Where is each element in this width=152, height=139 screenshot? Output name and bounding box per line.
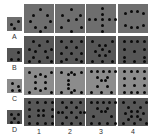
dot (123, 48, 126, 51)
dot (70, 30, 73, 33)
dot (90, 122, 93, 125)
pattern-cell-a1 (24, 4, 54, 33)
dot (123, 84, 126, 87)
dot (102, 101, 105, 104)
dot (123, 91, 126, 94)
dot (136, 70, 139, 73)
dot (13, 117, 16, 120)
dot (139, 106, 142, 109)
dot (80, 26, 83, 29)
dot (10, 58, 13, 61)
dot (70, 101, 73, 104)
dot (139, 118, 142, 121)
dot (123, 70, 126, 73)
dot (29, 20, 32, 23)
dot (108, 50, 111, 53)
pattern-cell-c1 (24, 67, 54, 95)
dot (108, 70, 111, 73)
dot (17, 51, 20, 54)
dot (133, 84, 136, 87)
col-label-2: 2 (68, 128, 72, 136)
dot (143, 91, 146, 94)
dot (80, 60, 83, 63)
dot (51, 101, 54, 104)
dot (28, 101, 31, 104)
dot (108, 101, 111, 104)
dot (133, 77, 136, 80)
dot (32, 56, 35, 59)
dot (61, 111, 64, 114)
dot (60, 52, 63, 55)
dot (28, 48, 31, 51)
dot (110, 115, 113, 118)
row-label-d: D (12, 126, 17, 134)
dot (124, 24, 127, 27)
dot (130, 10, 133, 13)
pattern-cell-b4 (118, 36, 148, 64)
dot (143, 48, 146, 51)
dot (44, 87, 47, 90)
dot (88, 18, 91, 21)
dot (104, 79, 107, 82)
dot (130, 115, 133, 118)
pattern-cell-c2 (55, 67, 85, 95)
dot (130, 40, 133, 43)
dot (67, 83, 70, 86)
dot (104, 110, 107, 113)
dot (92, 115, 95, 118)
dot (101, 7, 104, 10)
dot (46, 56, 49, 59)
dot (70, 122, 73, 125)
dot (75, 46, 78, 49)
dot (114, 18, 117, 21)
dot (114, 70, 117, 73)
dot (37, 114, 40, 117)
dot (114, 122, 117, 125)
dot (101, 48, 104, 51)
dot (44, 122, 47, 125)
dot (37, 109, 40, 112)
dot (79, 14, 82, 17)
pattern-cell-d2 (55, 98, 85, 126)
dot (46, 40, 49, 43)
dot (57, 111, 60, 114)
dot (130, 91, 133, 94)
dot (39, 73, 42, 76)
dot (110, 91, 113, 94)
dot (101, 30, 104, 33)
dot (133, 122, 136, 125)
dot (143, 84, 146, 87)
sample-square-c (7, 79, 22, 93)
row-label-a: A (12, 33, 17, 41)
dot (17, 20, 20, 23)
dot (67, 79, 70, 82)
dot (91, 60, 94, 63)
dot (130, 70, 133, 73)
dot (94, 50, 97, 53)
dot (142, 24, 145, 27)
dot (136, 110, 139, 113)
dot (50, 48, 53, 51)
dot (80, 40, 83, 43)
dot (96, 70, 99, 73)
dot (50, 91, 53, 94)
dot (98, 54, 101, 57)
dot (34, 81, 37, 84)
dot (17, 113, 20, 116)
dot (10, 23, 13, 26)
dot (124, 112, 127, 115)
dot (145, 122, 148, 125)
dot (143, 60, 146, 63)
dot (50, 60, 53, 63)
dot (143, 70, 146, 73)
dot (80, 91, 83, 94)
dot (75, 18, 78, 21)
dot (123, 56, 126, 59)
dot (80, 71, 83, 74)
dot (67, 87, 70, 90)
dot (90, 70, 93, 73)
dot (32, 40, 35, 43)
dot (111, 60, 114, 63)
dot (123, 77, 126, 80)
dot (102, 70, 105, 73)
